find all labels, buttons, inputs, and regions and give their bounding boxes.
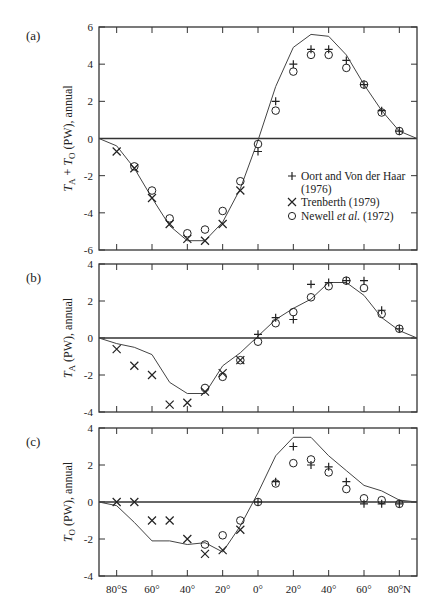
panel-label: (a) [26, 28, 40, 43]
y-tick-label: 2 [88, 459, 94, 471]
plus-marker [254, 330, 262, 338]
y-tick-label: 2 [88, 95, 94, 107]
circle-marker [184, 229, 192, 237]
circle-marker [254, 338, 262, 346]
y-tick-label: 2 [88, 295, 94, 307]
x-tick-label: 80°N [388, 583, 411, 595]
y-tick-label: -2 [84, 369, 93, 381]
y-tick-label: 0 [88, 332, 94, 344]
y-tick-label: 6 [88, 21, 94, 33]
panel-c: -4-2024(c)TO (PW), annual80°S60°40°20°0°… [26, 422, 417, 595]
legend-label-oort: Oort and Von der Haar [301, 170, 405, 182]
y-tick-label: -6 [84, 244, 94, 256]
x-tick-label: 60° [356, 583, 371, 595]
y-tick-label: 4 [88, 58, 94, 70]
y-tick-label: -4 [84, 207, 94, 219]
legend-cross-icon [288, 198, 296, 206]
x-tick-label: 40° [180, 583, 195, 595]
y-tick-label: 0 [88, 133, 94, 145]
legend: Oort and Von der Haar(1976)Trenberth (19… [288, 170, 405, 223]
heat-transport-chart: -6-4-20246(a)TA + TO (PW), annual-4-2024… [0, 0, 440, 612]
x-tick-label: 40° [321, 583, 336, 595]
y-tick-label: 4 [88, 422, 94, 434]
y-tick-label: 4 [88, 258, 94, 270]
plus-marker [342, 56, 350, 64]
y-axis-label: TO (PW), annual [61, 461, 77, 542]
x-tick-label: 0° [253, 583, 263, 595]
legend-plus-icon [288, 172, 296, 180]
circle-marker [307, 294, 315, 302]
circle-marker [148, 187, 156, 195]
cross-marker [148, 371, 156, 379]
circle-marker [219, 373, 227, 381]
panel-b: -4-2024(b)TA (PW), annual [26, 258, 417, 418]
cross-marker [148, 194, 156, 202]
y-axis-label: TA + TO (PW), annual [61, 85, 77, 192]
legend-label-newell: Newell et al. (1972) [301, 210, 394, 223]
plus-marker [289, 316, 297, 324]
plus-marker [289, 443, 297, 451]
circle-marker [166, 215, 174, 223]
plus-marker [342, 478, 350, 486]
y-tick-label: -4 [84, 570, 94, 582]
cross-marker [183, 535, 191, 543]
plus-marker [289, 60, 297, 68]
circle-marker [290, 308, 298, 316]
circle-marker [201, 226, 209, 234]
plus-marker [272, 97, 280, 105]
circle-marker [201, 384, 209, 392]
x-tick-label: 60° [144, 583, 159, 595]
cross-marker [113, 148, 121, 156]
cross-marker [113, 345, 121, 353]
y-tick-label: -4 [84, 406, 94, 418]
cross-marker [201, 550, 209, 558]
legend-circle-icon [288, 212, 295, 219]
plus-marker [360, 277, 368, 285]
circle-marker [343, 64, 351, 72]
cross-marker [166, 517, 174, 525]
x-tick-label: 80°S [106, 583, 128, 595]
model-curve [99, 437, 417, 552]
y-axis-label: TA (PW), annual [61, 297, 77, 378]
circle-marker [290, 68, 298, 76]
cross-marker [183, 399, 191, 407]
panel-label: (b) [26, 270, 41, 285]
x-tick-label: 20° [215, 583, 230, 595]
y-tick-label: -2 [84, 170, 93, 182]
cross-marker [130, 362, 138, 370]
circle-marker [290, 459, 298, 467]
legend-label-trenberth: Trenberth (1979) [301, 196, 380, 209]
x-tick-label: 20° [286, 583, 301, 595]
panel-label: (c) [26, 434, 40, 449]
cross-marker [166, 401, 174, 409]
circle-marker [219, 207, 227, 215]
y-tick-label: -2 [84, 533, 93, 545]
cross-marker [148, 517, 156, 525]
circle-marker [343, 485, 351, 493]
circle-marker [219, 532, 227, 540]
circle-marker [360, 284, 368, 292]
plus-marker [307, 280, 315, 288]
y-tick-label: 0 [88, 496, 94, 508]
legend-label-oort-year: (1976) [301, 183, 332, 196]
circle-marker [272, 107, 280, 115]
